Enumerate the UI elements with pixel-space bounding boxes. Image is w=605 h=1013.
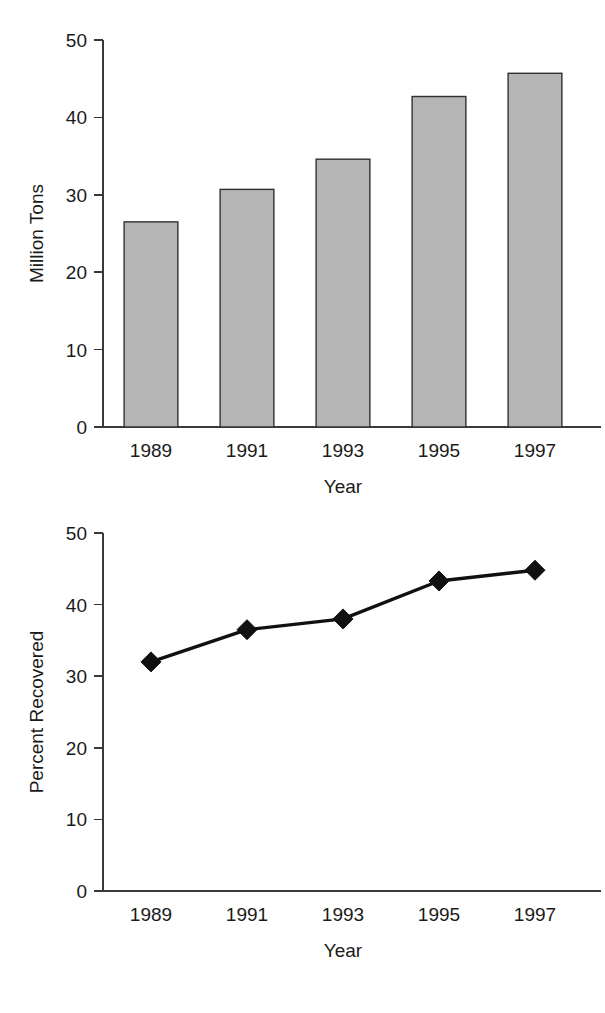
x-tick-label: 1989 xyxy=(130,440,172,461)
line-chart-canvas: 0102030405019891991199319951997YearPerce… xyxy=(0,500,605,1013)
bar-group xyxy=(412,97,466,427)
data-point-1991 xyxy=(237,620,257,640)
bar-chart-figure: 0102030405019891991199319951997YearMilli… xyxy=(0,0,605,500)
bar-1993 xyxy=(316,159,370,427)
data-point-1995 xyxy=(429,571,449,591)
x-tick-label: 1995 xyxy=(418,904,460,925)
y-axis-title: Percent Recovered xyxy=(26,631,47,794)
y-tick-label: 0 xyxy=(76,881,87,902)
x-tick-label: 1995 xyxy=(418,440,460,461)
bar-group xyxy=(124,222,178,427)
y-axis-title: Million Tons xyxy=(26,184,47,283)
y-tick-label: 10 xyxy=(66,809,87,830)
y-tick-label: 0 xyxy=(76,417,87,438)
data-point-1993 xyxy=(333,609,353,629)
y-tick-label: 30 xyxy=(66,666,87,687)
bar-chart-canvas: 0102030405019891991199319951997YearMilli… xyxy=(0,0,605,500)
bar-group xyxy=(508,73,562,427)
line-chart-figure: 0102030405019891991199319951997YearPerce… xyxy=(0,500,605,1013)
y-tick-label: 40 xyxy=(66,107,87,128)
data-point-1989 xyxy=(141,652,161,672)
bar-1991 xyxy=(220,189,274,427)
x-tick-label: 1993 xyxy=(322,904,364,925)
y-tick-label: 50 xyxy=(66,523,87,544)
bar-1995 xyxy=(412,97,466,427)
y-tick-label: 10 xyxy=(66,340,87,361)
x-tick-label: 1993 xyxy=(322,440,364,461)
bar-1989 xyxy=(124,222,178,427)
x-tick-label: 1991 xyxy=(226,904,268,925)
x-tick-label: 1989 xyxy=(130,904,172,925)
y-tick-label: 20 xyxy=(66,738,87,759)
data-point-1997 xyxy=(525,560,545,580)
x-tick-label: 1991 xyxy=(226,440,268,461)
x-tick-label: 1997 xyxy=(514,904,556,925)
y-tick-label: 50 xyxy=(66,30,87,51)
bar-1997 xyxy=(508,73,562,427)
x-tick-label: 1997 xyxy=(514,440,556,461)
y-tick-label: 20 xyxy=(66,262,87,283)
y-tick-label: 40 xyxy=(66,595,87,616)
bar-group xyxy=(220,189,274,427)
chart-page: 0102030405019891991199319951997YearMilli… xyxy=(0,0,605,1013)
x-axis-title: Year xyxy=(324,476,363,497)
bar-group xyxy=(316,159,370,427)
x-axis-title: Year xyxy=(324,940,363,961)
y-tick-label: 30 xyxy=(66,185,87,206)
